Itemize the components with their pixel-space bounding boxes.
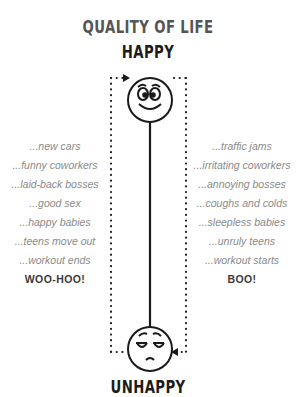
unhappy-face-icon xyxy=(128,327,172,371)
negative-things-list: ...traffic jams ...irritating coworkers … xyxy=(188,137,296,289)
list-item: ...irritating coworkers xyxy=(188,156,296,175)
list-item: ...teens move out xyxy=(0,232,110,251)
unhappy-label: UNHAPPY xyxy=(33,377,264,397)
happy-face-icon xyxy=(128,78,172,122)
list-item: ...workout ends xyxy=(0,251,110,270)
boo-label: BOO! xyxy=(188,270,296,289)
list-item: ...workout starts xyxy=(188,251,296,270)
arrow-right-icon xyxy=(123,74,130,82)
list-item: ...happy babies xyxy=(0,213,110,232)
woo-hoo-label: WOO-HOO! xyxy=(0,270,110,289)
list-item: ...laid-back bosses xyxy=(0,175,110,194)
list-item: ...coughs and colds xyxy=(188,194,296,213)
list-item: ...new cars xyxy=(0,137,110,156)
list-item: ...annoying bosses xyxy=(188,175,296,194)
list-item: ...traffic jams xyxy=(188,137,296,156)
list-item: ...good sex xyxy=(0,194,110,213)
list-item: ...funny coworkers xyxy=(0,156,110,175)
positive-things-list: ...new cars ...funny coworkers ...laid-b… xyxy=(0,137,110,289)
list-item: ...sleepless babies xyxy=(188,213,296,232)
list-item: ...unruly teens xyxy=(188,232,296,251)
